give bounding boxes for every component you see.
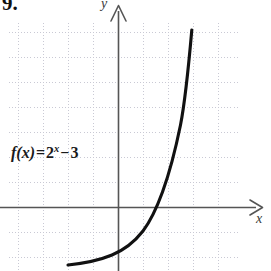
- equation-annotation: f(x)=2x−3: [11, 144, 78, 162]
- x-axis-label: x: [256, 212, 262, 226]
- problem-number: 9.: [2, 0, 18, 14]
- equation-lhs: f(x): [11, 144, 35, 161]
- graph-figure: 9. f(x)=2x−3 y x: [0, 0, 271, 271]
- y-axis-label: y: [101, 0, 107, 11]
- equation-equals: =: [35, 144, 46, 161]
- equation-base: 2: [46, 144, 54, 161]
- coordinate-plane: [0, 0, 271, 271]
- equation-operator: −: [59, 144, 70, 161]
- equation-constant: 3: [70, 144, 78, 161]
